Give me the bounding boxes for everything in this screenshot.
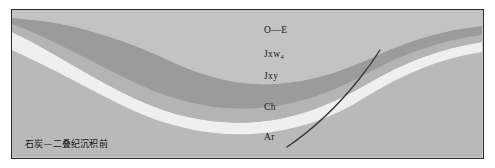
caption-note: 石炭—二叠纪沉积前: [25, 140, 108, 149]
unit-label-jxw4-subscript: 4: [281, 53, 285, 60]
unit-label-jxw4: Jxw4: [264, 50, 284, 60]
unit-label-oe: O—E: [264, 26, 287, 36]
unit-label-jxy: Jxy: [264, 72, 278, 82]
unit-label-jxw4-text: Jxw: [264, 49, 281, 59]
unit-label-ch: Ch: [264, 103, 276, 113]
unit-label-ar: Ar: [264, 133, 275, 143]
geologic-cross-section-figure: O—E Jxw4 Jxy Ch Ar 石炭—二叠纪沉积前: [0, 0, 495, 168]
cross-section-drawing: [12, 10, 482, 157]
section-frame: O—E Jxw4 Jxy Ch Ar 石炭—二叠纪沉积前: [11, 9, 484, 159]
